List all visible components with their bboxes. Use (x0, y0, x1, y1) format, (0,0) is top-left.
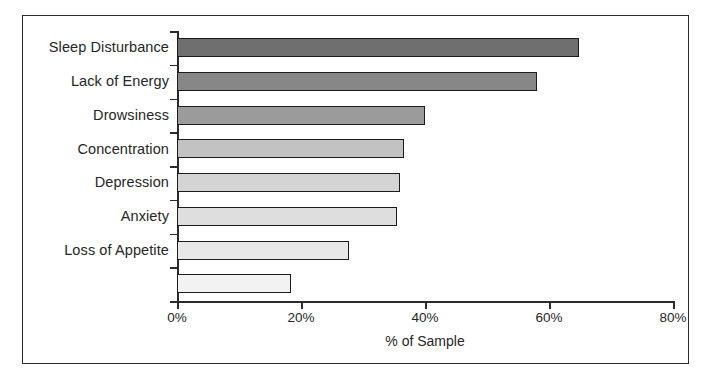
bar (177, 139, 404, 158)
category-label: Concentration (21, 142, 169, 157)
bar (177, 106, 425, 125)
bar (177, 173, 400, 192)
bar (177, 72, 537, 91)
x-axis-tick (177, 301, 179, 309)
category-label: Drowsiness (21, 108, 169, 123)
x-axis-title: % of Sample (177, 334, 673, 349)
x-axis-tick-label: 40% (411, 311, 438, 325)
chart-figure-frame: Sleep DisturbanceLack of EnergyDrowsines… (22, 15, 689, 364)
bar (177, 207, 397, 226)
x-axis-tick (549, 301, 551, 309)
x-axis-tick (425, 301, 427, 309)
bar (177, 274, 291, 293)
category-label: Sleep Disturbance (21, 40, 169, 55)
bar-series (177, 31, 673, 301)
x-axis-tick-label: 60% (535, 311, 562, 325)
x-axis-tick-label: 0% (167, 311, 187, 325)
bar (177, 241, 349, 260)
category-axis-labels: Sleep DisturbanceLack of EnergyDrowsines… (23, 31, 169, 301)
bar (177, 38, 579, 57)
bar-chart-plot: Sleep DisturbanceLack of EnergyDrowsines… (23, 16, 690, 365)
category-label: Loss of Appetite (21, 243, 169, 258)
x-axis-tick (673, 301, 675, 309)
x-axis-tick (301, 301, 303, 309)
category-label: Depression (21, 175, 169, 190)
category-label: Lack of Energy (21, 74, 169, 89)
category-label: Anxiety (21, 209, 169, 224)
x-axis-tick-label: 20% (287, 311, 314, 325)
x-axis-tick-label: 80% (659, 311, 686, 325)
